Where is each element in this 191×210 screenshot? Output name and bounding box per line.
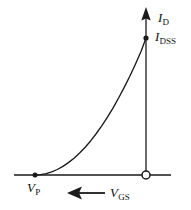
idss-value-label: IDSS — [155, 30, 176, 43]
y-axis-label-symbol: I — [158, 10, 163, 25]
y-axis-label-id: ID — [158, 11, 169, 24]
idss-label-symbol: I — [155, 29, 160, 44]
vgs-label-symbol: V — [110, 185, 118, 200]
jfet-transfer-characteristic-figure: ID IDSS VP VGS — [0, 0, 191, 210]
pinch-off-voltage-label: VP — [27, 181, 40, 194]
origin-point-marker — [142, 171, 150, 179]
y-axis-label-subscript: D — [163, 17, 170, 27]
vgs-label-subscript: GS — [118, 192, 130, 202]
idss-point-marker — [143, 35, 148, 40]
vp-label-subscript: P — [35, 187, 40, 197]
transfer-curve — [35, 38, 146, 175]
vp-label-symbol: V — [27, 180, 35, 195]
pinch-off-point-marker — [33, 173, 38, 178]
x-axis-label-vgs: VGS — [110, 186, 130, 199]
idss-label-subscript: DSS — [160, 36, 177, 46]
